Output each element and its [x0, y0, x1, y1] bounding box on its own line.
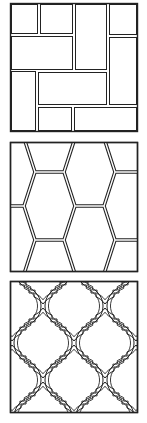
tile-hexagon-pattern: Elongated hexagon tile pattern: [0, 140, 147, 280]
tile-arabesque-pattern: Arabesque lantern tile pattern: [0, 280, 147, 423]
brick-pattern-icon: [0, 0, 147, 140]
hexagon-pattern-icon: [0, 140, 147, 280]
tile-brick-pattern: Rectangular brick / pinwheel tile patter…: [0, 0, 147, 140]
arabesque-pattern-icon: [0, 280, 147, 423]
